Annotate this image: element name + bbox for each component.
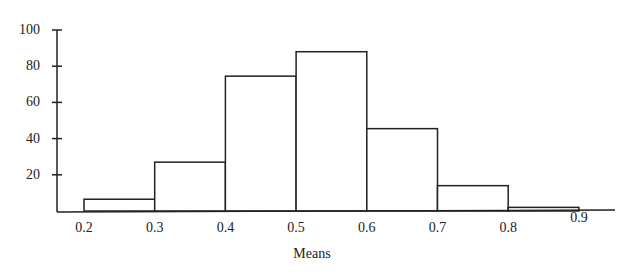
y-tick-label: 40 xyxy=(26,131,40,146)
x-tick-label: 0.8 xyxy=(499,220,517,235)
y-ticks: 20406080100 xyxy=(19,22,62,182)
histogram-bar xyxy=(367,129,438,211)
histogram-bar xyxy=(155,162,226,211)
x-tick-label: 0.9 xyxy=(570,210,588,225)
x-tick-label: 0.7 xyxy=(429,220,447,235)
x-ticks: 0.20.30.40.50.60.70.80.9 xyxy=(75,210,587,235)
y-tick-label: 20 xyxy=(26,167,40,182)
histogram-bar xyxy=(296,52,367,211)
histogram-bar xyxy=(84,199,155,211)
x-tick-label: 0.2 xyxy=(75,220,93,235)
y-tick-label: 80 xyxy=(26,58,40,73)
x-tick-label: 0.3 xyxy=(146,220,164,235)
y-tick-label: 60 xyxy=(26,94,40,109)
x-tick-label: 0.5 xyxy=(287,220,305,235)
x-tick-label: 0.4 xyxy=(217,220,235,235)
histogram-chart: 20406080100 0.20.30.40.50.60.70.80.9 Mea… xyxy=(0,0,628,277)
histogram-bar xyxy=(225,76,296,211)
x-axis-label: Means xyxy=(293,246,330,261)
histogram-bar xyxy=(438,186,509,211)
y-tick-label: 100 xyxy=(19,22,40,37)
bars xyxy=(84,52,579,211)
x-tick-label: 0.6 xyxy=(358,220,376,235)
